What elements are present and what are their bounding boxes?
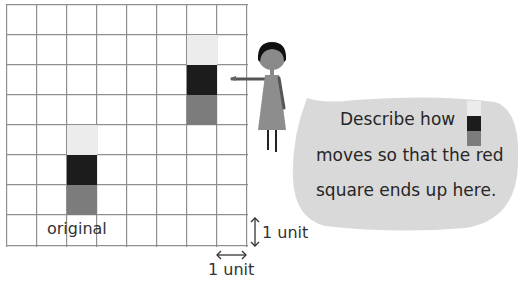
- mini-shape-icon: [467, 101, 481, 146]
- bubble-line-3: square ends up here.: [316, 180, 496, 200]
- original-red-square: [67, 185, 97, 215]
- moved-dark-square: [187, 65, 217, 95]
- moved-red-square: [187, 95, 217, 125]
- coordinate-grid: [6, 4, 247, 246]
- original-label: original: [47, 219, 107, 238]
- bubble-line-2: moves so that the red: [316, 145, 504, 165]
- original-light-square: [67, 125, 97, 155]
- horizontal-unit-label: 1 unit: [208, 260, 254, 279]
- bubble-line-1: Describe how: [340, 109, 455, 129]
- vertical-double-arrow-icon: [249, 216, 261, 250]
- moved-light-square: [187, 35, 217, 65]
- original-dark-square: [67, 155, 97, 185]
